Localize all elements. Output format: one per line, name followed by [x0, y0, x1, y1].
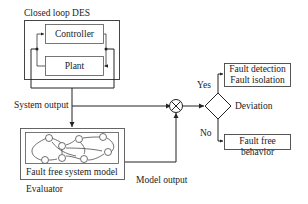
controller-label: Controller	[45, 29, 104, 40]
fault-free-label: Fault free behavior	[224, 136, 291, 158]
yes-label: Yes	[197, 80, 211, 91]
decision-diamond	[205, 93, 231, 119]
evaluator-label: Evaluator	[26, 184, 63, 195]
yes-branch-line	[218, 74, 223, 93]
no-label: No	[200, 128, 212, 139]
model-label: Fault free system model	[26, 167, 118, 178]
closed-loop-label: Closed loop DES	[24, 8, 90, 19]
system-output-label: System output	[14, 100, 69, 111]
fault-isolation-label: Fault isolation	[224, 75, 291, 86]
model-output-line	[125, 113, 176, 162]
no-branch-line	[218, 119, 223, 141]
fault-detection-label: Fault detection	[224, 64, 291, 75]
model-output-label: Model output	[136, 175, 187, 186]
loop-left-connector	[37, 34, 45, 66]
plant-label: Plant	[45, 61, 104, 72]
deviation-label: Deviation	[235, 101, 272, 112]
comparator-icon	[170, 100, 183, 113]
